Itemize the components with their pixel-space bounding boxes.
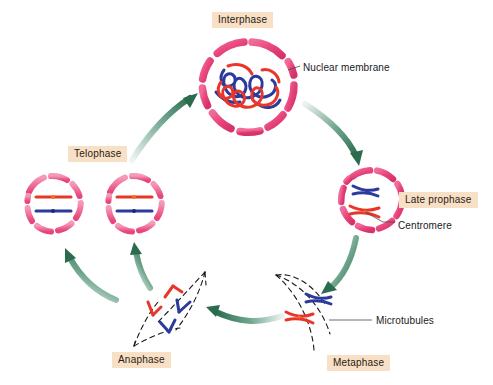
- chromosome-blue-late-prophase: [353, 186, 378, 196]
- stage-label-anaphase: Anaphase: [112, 352, 171, 368]
- stage-label-late-prophase: Late prophase: [399, 192, 478, 208]
- arrow-anaphase-to-telophase-second: [130, 242, 150, 288]
- arrow-interphase-to-late-prophase: [305, 104, 363, 166]
- chromosome-red-telophase-1: [36, 195, 71, 199]
- annotation-label-nuclear-membrane: Nuclear membrane: [303, 62, 390, 73]
- centromere-dot-metaphase: [297, 315, 300, 318]
- cell-late-prophase: [341, 170, 402, 230]
- stage-label-telophase: Telophase: [68, 146, 127, 162]
- nuclear-membrane-interphase: [202, 42, 294, 132]
- arrow-late-prophase-to-metaphase: [321, 238, 356, 294]
- cell-interphase: [202, 42, 294, 132]
- chromatid-blue-lower-anaphase: [160, 320, 175, 332]
- cell-cycle-diagram: Interphase Late prophase Metaphase Anaph…: [0, 0, 493, 385]
- arrow-telophase-to-interphase: [132, 93, 198, 160]
- nuclear-membrane-telophase-2: [108, 176, 161, 232]
- nuclear-membrane-late-prophase: [341, 170, 402, 230]
- stage-label-interphase: Interphase: [212, 12, 273, 28]
- cell-telophase-2: [108, 176, 161, 232]
- arrow-metaphase-to-anaphase: [206, 305, 282, 321]
- chromatid-blue-right-anaphase: [177, 300, 190, 312]
- arrow-anaphase-to-telophase: [65, 248, 116, 300]
- chromatid-red-upper-anaphase: [165, 286, 182, 297]
- stage-label-metaphase: Metaphase: [327, 355, 390, 371]
- nuclear-membrane-telophase-1: [27, 176, 80, 232]
- chromosome-red-telophase-2: [117, 195, 152, 199]
- chromosome-blue-telophase-1: [36, 209, 71, 213]
- annotation-label-centromere: Centromere: [398, 220, 452, 231]
- annotation-label-microtubules: Microtubules: [376, 315, 434, 326]
- chromosome-blue-telophase-2: [117, 209, 152, 213]
- cell-telophase-1: [27, 176, 80, 232]
- spindle-metaphase: [276, 275, 330, 350]
- cell-metaphase: [276, 275, 372, 350]
